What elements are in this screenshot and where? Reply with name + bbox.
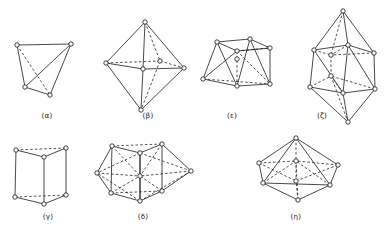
vertex-node: [336, 163, 340, 167]
vertex-node: [296, 198, 300, 202]
vertex-node: [248, 37, 252, 41]
vertex-node: [143, 20, 147, 24]
vertex-node: [23, 85, 27, 89]
vertex-node: [138, 174, 142, 178]
vertex-node: [15, 43, 19, 47]
vertex-node: [329, 53, 333, 57]
vertex-node: [268, 46, 272, 50]
vertex-node: [215, 40, 219, 44]
vertex-node: [235, 49, 239, 53]
vertex-node: [141, 67, 145, 71]
vertex-node: [329, 74, 333, 78]
vertex-node: [235, 57, 239, 61]
vertex-node: [308, 85, 312, 89]
vertex-node: [69, 42, 73, 46]
vertex-node: [95, 171, 99, 175]
vertex-node: [42, 202, 46, 206]
vertex-node: [138, 151, 142, 155]
panel-label-delta: (δ): [138, 212, 149, 221]
vertex-node: [235, 84, 239, 88]
vertex-node: [160, 142, 164, 146]
vertex-node: [64, 193, 68, 197]
vertex-node: [160, 189, 164, 193]
vertex-node: [341, 91, 345, 95]
vertex-node: [182, 66, 186, 70]
vertex-node: [13, 195, 17, 199]
vertex-node: [294, 136, 298, 140]
panel-label-eta: (η): [291, 212, 302, 221]
vertex-node: [48, 93, 52, 97]
vertex-node: [257, 161, 261, 165]
vertex-node: [201, 77, 205, 81]
vertex-node: [346, 120, 350, 124]
vertex-node: [109, 191, 113, 195]
panel-label-alpha: (α): [42, 111, 53, 120]
vertex-node: [328, 183, 332, 187]
panel-label-gamma: (γ): [43, 212, 53, 221]
vertex-node: [104, 61, 108, 65]
vertex-node: [110, 144, 114, 148]
panel-label-zeta: (ζ): [317, 111, 327, 120]
vertex-node: [346, 43, 350, 47]
vertex-node: [372, 51, 376, 55]
vertex-node: [14, 148, 18, 152]
polyhedra-figure-plate: (α)(β)(ε)(ζ)(γ)(δ)(η): [0, 0, 390, 233]
vertex-node: [294, 159, 298, 163]
vertex-node: [138, 199, 142, 203]
vertex-node: [261, 181, 265, 185]
panel-label-epsilon: (ε): [227, 111, 237, 120]
vertex-node: [294, 179, 298, 183]
vertex-node: [373, 87, 377, 91]
vertex-node: [312, 48, 316, 52]
vertex-node: [268, 82, 272, 86]
vertex-node: [42, 155, 46, 159]
polyhedra-canvas: (α)(β)(ε)(ζ)(γ)(δ)(η): [0, 0, 390, 233]
vertex-node: [158, 59, 162, 63]
vertex-node: [189, 169, 193, 173]
panel-label-beta: (β): [143, 111, 154, 120]
vertex-node: [341, 9, 345, 13]
vertex-node: [64, 146, 68, 150]
